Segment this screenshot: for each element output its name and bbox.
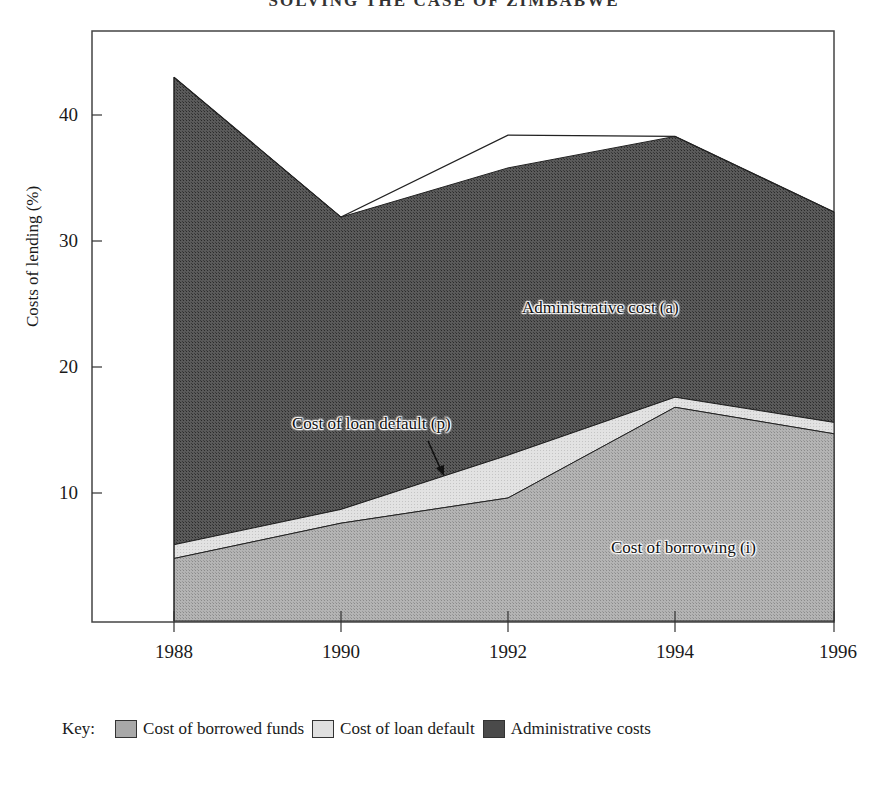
legend-swatch-borrowed-funds: [115, 720, 137, 738]
y-tick-20: 20: [38, 356, 78, 378]
y-tick-10: 10: [38, 482, 78, 504]
y-tick-30: 30: [38, 230, 78, 252]
legend-label-administrative: Administrative costs: [511, 719, 651, 739]
annotation-administrative-cost: Administrative cost (a): [522, 298, 679, 318]
legend-swatch-loan-default: [312, 720, 334, 738]
legend-item-borrowed-funds: Cost of borrowed funds: [115, 719, 304, 739]
chart-plot: [0, 0, 888, 785]
legend-item-administrative: Administrative costs: [483, 719, 651, 739]
legend-label-loan-default: Cost of loan default: [340, 719, 475, 739]
legend-item-loan-default: Cost of loan default: [312, 719, 475, 739]
x-tick-1988: 1988: [144, 641, 204, 663]
y-axis-label: Costs of lending (%): [23, 186, 43, 327]
legend-key-label: Key:: [62, 719, 95, 739]
x-tick-1994: 1994: [645, 641, 705, 663]
annotation-loan-default: Cost of loan default (p): [292, 414, 451, 434]
x-tick-1990: 1990: [311, 641, 371, 663]
legend-swatch-administrative: [483, 720, 505, 738]
y-tick-40: 40: [38, 104, 78, 126]
x-tick-1992: 1992: [478, 641, 538, 663]
legend: Key: Cost of borrowed funds Cost of loan…: [62, 719, 659, 739]
x-tick-1996: 1996: [808, 641, 868, 663]
legend-label-borrowed-funds: Cost of borrowed funds: [143, 719, 304, 739]
annotation-cost-of-borrowing: Cost of borrowing (i): [611, 538, 756, 558]
